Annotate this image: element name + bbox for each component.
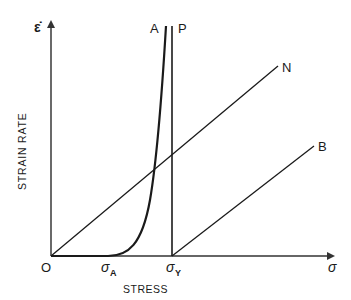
svg-text:Y: Y <box>175 268 181 278</box>
svg-text:σ: σ <box>166 259 175 275</box>
curve-p-label: P <box>178 21 187 36</box>
curve-b-label: B <box>318 139 327 154</box>
svg-text:σ: σ <box>101 259 110 275</box>
strain-rate-stress-diagram: ε̇ STRAIN RATE A P N B O σ A σ Y σ STRES… <box>0 0 351 300</box>
svg-text:A: A <box>110 268 117 278</box>
curve-n-label: N <box>282 60 291 75</box>
x-axis-label: STRESS <box>123 283 168 295</box>
y-axis-label: STRAIN RATE <box>16 113 28 190</box>
curve-a-label: A <box>150 21 159 36</box>
tick-sigma-y: σ Y <box>166 259 181 278</box>
tick-sigma-a: σ A <box>101 259 117 278</box>
origin-label: O <box>41 260 51 275</box>
line-n <box>51 66 278 256</box>
y-axis-symbol: ε̇ <box>34 19 42 35</box>
x-axis-symbol: σ <box>328 259 337 275</box>
curve-a <box>51 26 166 256</box>
line-b <box>172 146 314 256</box>
